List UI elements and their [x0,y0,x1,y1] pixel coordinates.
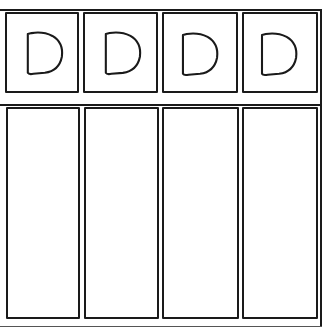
letter-d-icon [164,14,236,91]
frame-top-border [0,9,322,11]
frame-bottom-border [0,326,322,327]
bottom-column-3 [162,107,239,319]
letter-d-icon [244,14,316,91]
frame-right-border [320,9,322,327]
letter-d-icon [7,14,77,91]
bottom-column-2 [84,107,159,319]
top-cell-4 [242,12,318,93]
bottom-column-1 [6,107,80,319]
frame-divider [0,104,322,106]
letter-d-icon [85,14,156,91]
top-cell-1 [5,12,79,93]
bottom-column-4 [242,107,318,319]
top-cell-2 [83,12,158,93]
top-cell-3 [162,12,238,93]
